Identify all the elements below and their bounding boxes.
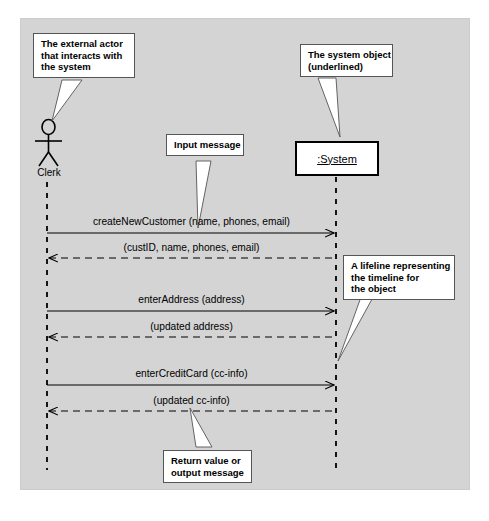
callout-line: (underlined) [308,61,386,73]
message-label-5: (updated cc-info) [47,395,336,406]
callout-line: the timeline for [351,272,448,284]
callout-line: that interacts with [41,50,128,62]
callout-input-message: Input message [166,134,244,156]
callout-line: Input message [174,139,237,151]
message-label-1: (custID, name, phones, email) [47,242,336,253]
actor-label: Clerk [27,167,71,178]
callout-line: The system object [308,49,386,61]
message-label-2: enterAddress (address) [47,294,336,305]
callout-return-value: Return value or output message [163,450,252,483]
callout-tail-lifeline [338,290,377,361]
callout-line: the system [41,61,128,73]
system-object-label: :System [317,153,357,165]
callout-system-object: The system object (underlined) [300,44,393,77]
diagram-page: :System Clerk createNewCustomer (name, p… [0,0,489,521]
callout-line: Return value or [171,455,245,467]
callout-lifeline: A lifeline representing the timeline for… [343,255,455,300]
system-object-box[interactable]: :System [295,141,379,176]
callout-tail-return [190,408,212,447]
callout-line: the object [351,283,448,295]
callout-external-actor: The external actor that interacts with t… [33,33,135,78]
callout-line: output message [171,467,245,479]
message-label-4: enterCreditCard (cc-info) [47,368,336,379]
callout-tail-system [318,78,340,137]
callout-line: A lifeline representing [351,260,448,272]
message-label-3: (updated address) [47,321,336,332]
actor-stick-figure [35,120,62,167]
callout-line: The external actor [41,38,128,50]
message-label-0: createNewCustomer (name, phones, email) [47,216,336,227]
callout-tail-actor [52,80,82,121]
